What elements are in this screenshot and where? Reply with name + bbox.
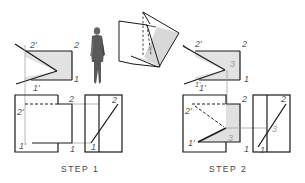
label-1: 1	[244, 74, 249, 84]
label-2: 2	[241, 94, 247, 104]
step2-front-view: 1' 2 2' 1' 1 3	[183, 81, 267, 154]
label-2: 2	[280, 94, 286, 104]
step-1-group: 2' 2 1 1' 2 2' 1' 1 2 1 STEP 1	[15, 40, 122, 174]
step-2-caption: STEP 2	[209, 164, 247, 174]
step1-side-view: 2 1	[85, 95, 122, 152]
label-2: 2	[241, 39, 247, 49]
step-2-group: 2' 2 1 1' 3 1' 2 2' 1' 1 3 2	[183, 39, 290, 174]
step-1-caption: STEP 1	[61, 164, 99, 174]
label-2-prime: 2'	[194, 39, 202, 49]
pictorial-illustration: 3	[119, 12, 189, 67]
diagram-canvas: 3 2' 2 1 1'	[0, 0, 305, 183]
step2-side-view: 2 1 3	[253, 94, 290, 155]
label-2: 2	[68, 94, 74, 104]
label-2-prime: 2'	[29, 40, 37, 50]
label-1-prime: 1'	[33, 83, 40, 93]
label-1: 1	[260, 145, 265, 155]
label-3: 3	[228, 133, 233, 143]
label-1-prime: 1'	[188, 138, 195, 148]
label-1-prime: 1'	[19, 141, 26, 151]
label-1: 1	[91, 142, 96, 152]
step1-top-view: 2' 2 1 1'	[15, 40, 79, 143]
label-3: 3	[272, 124, 277, 134]
label-2: 2	[111, 95, 117, 105]
label-3: 3	[230, 59, 235, 69]
human-figure-icon	[90, 27, 105, 84]
label-1: 1	[244, 144, 249, 154]
label-2-prime: 2'	[184, 106, 192, 116]
label-1-prime-top: 1'	[195, 81, 201, 88]
label-2: 2	[73, 40, 79, 50]
label-1: 1	[74, 74, 79, 84]
step1-front-view: 2 2' 1' 1	[15, 94, 99, 154]
label-1: 1	[70, 144, 75, 154]
svg-text:3: 3	[148, 45, 152, 52]
label-2-prime: 2'	[16, 107, 24, 117]
